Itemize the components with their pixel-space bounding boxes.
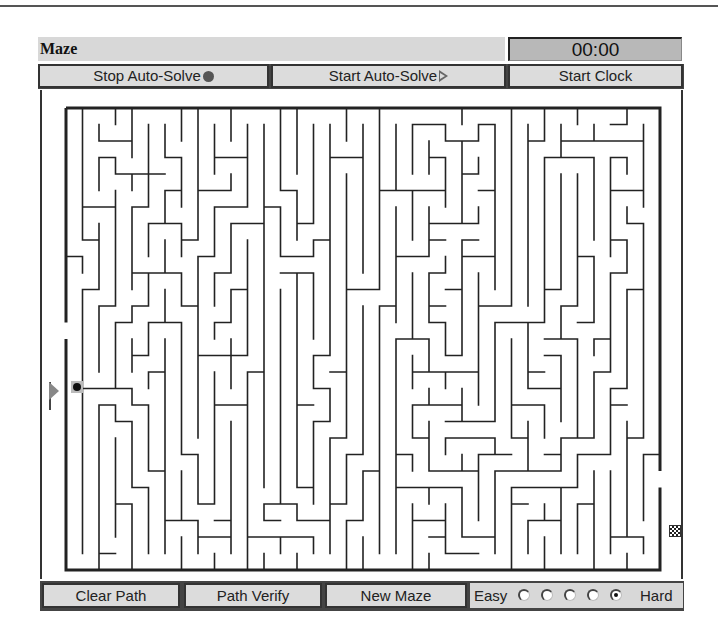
top-divider (0, 5, 718, 7)
difficulty-radio-3[interactable] (564, 589, 576, 601)
play-triangle-icon (439, 70, 448, 82)
clear-path-button[interactable]: Clear Path (42, 583, 180, 608)
difficulty-hard-label: Hard (640, 583, 673, 608)
difficulty-radio-2[interactable] (541, 589, 553, 601)
stop-auto-solve-label: Stop Auto-Solve (93, 67, 201, 84)
player-marker[interactable] (71, 381, 83, 393)
filled-circle-icon (203, 71, 214, 82)
start-auto-solve-button[interactable]: Start Auto-Solve (271, 64, 506, 88)
path-verify-button[interactable]: Path Verify (184, 583, 322, 608)
stop-auto-solve-button[interactable]: Stop Auto-Solve (38, 64, 269, 88)
start-clock-button[interactable]: Start Clock (508, 64, 683, 88)
title-bar: Maze (38, 37, 505, 61)
start-auto-solve-label: Start Auto-Solve (329, 67, 437, 84)
player-ball-icon (73, 383, 81, 391)
difficulty-radio-1[interactable] (518, 589, 530, 601)
maze-panel[interactable] (40, 90, 683, 579)
difficulty-radio-4[interactable] (587, 589, 599, 601)
checkered-flag-icon (669, 525, 681, 537)
app-title: Maze (40, 40, 77, 58)
difficulty-easy-label: Easy (474, 583, 507, 608)
difficulty-radio-5[interactable] (610, 589, 622, 601)
bottom-toolbar: Clear Path Path Verify New Maze Easy Har… (40, 581, 684, 611)
maze-grid[interactable] (42, 90, 682, 579)
maze-app: Maze 00:00 Stop Auto-Solve Start Auto-So… (38, 37, 684, 613)
timer-display: 00:00 (508, 37, 682, 61)
control-toolbar: Stop Auto-Solve Start Auto-Solve Start C… (38, 64, 684, 89)
maze-walls (66, 108, 660, 570)
difficulty-selector: Easy Hard (470, 583, 683, 608)
new-maze-button[interactable]: New Maze (325, 583, 467, 608)
start-arrow-icon (49, 382, 59, 400)
